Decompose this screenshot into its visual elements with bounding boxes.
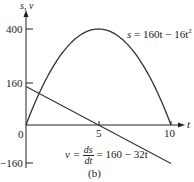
figure-caption: (b)	[88, 168, 101, 179]
y-axis-arrow-icon	[24, 10, 29, 17]
derivative-fraction: ds dt	[83, 145, 94, 166]
x-axis-arrow-icon	[178, 123, 185, 128]
x-axis-label: t	[187, 119, 190, 130]
y-axis-label: s, v	[20, 0, 33, 11]
x-tick-label-5: 5	[96, 128, 102, 139]
y-tick-label-160: 160	[6, 78, 23, 89]
x-tick-label-10: 10	[164, 128, 175, 139]
position-equation-label: s = 160t − 16t2	[127, 26, 192, 40]
y-tick-label-neg160: −160	[0, 158, 23, 169]
y-tick-label-400: 400	[6, 24, 23, 35]
position-curve	[26, 29, 171, 125]
origin-label: 0	[18, 129, 24, 140]
velocity-equation-label: v = ds dt = 160 − 32t	[65, 145, 148, 166]
